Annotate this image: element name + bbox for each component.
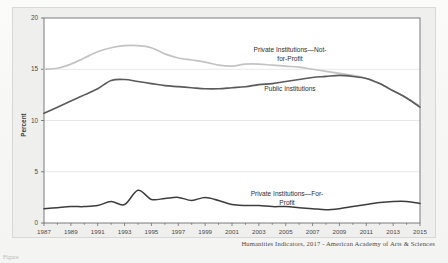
x-tick-label-1987: 1987 bbox=[37, 228, 51, 235]
y-tick-label-5: 5 bbox=[34, 168, 38, 175]
for-profit-label-line2: Profit bbox=[279, 199, 295, 206]
x-axis: 1987198919911993199519971999200120032005… bbox=[37, 223, 427, 235]
x-tick-label-2007: 2007 bbox=[306, 228, 320, 235]
chart-container: 05101520 1987198919911993199519971999200… bbox=[0, 0, 448, 263]
not-for-profit-label-line2: for-Profit bbox=[277, 55, 302, 62]
x-tick-label-1999: 1999 bbox=[198, 228, 212, 235]
for-profit-label-line1: Private Institutions—For- bbox=[251, 190, 324, 197]
x-tick-label-1997: 1997 bbox=[171, 228, 185, 235]
y-tick-label-0: 0 bbox=[34, 219, 38, 226]
line-chart: 05101520 1987198919911993199519971999200… bbox=[0, 0, 448, 263]
cut-off-figure-note: Figure bbox=[3, 254, 19, 261]
y-axis-title: Percent bbox=[20, 112, 27, 136]
x-tick-label-2011: 2011 bbox=[360, 228, 374, 235]
figure-source-caption: Humanities Indicators, 2017 - American A… bbox=[241, 240, 435, 247]
x-tick-label-2013: 2013 bbox=[386, 228, 400, 235]
figure-screenshot: 05101520 1987198919911993199519971999200… bbox=[0, 0, 448, 263]
y-tick-label-15: 15 bbox=[31, 65, 39, 72]
not-for-profit-label-line1: Private Institutions—Not- bbox=[254, 46, 327, 53]
x-tick-label-2009: 2009 bbox=[333, 228, 347, 235]
y-tick-label-20: 20 bbox=[31, 14, 39, 21]
x-tick-label-1989: 1989 bbox=[64, 228, 78, 235]
public-institutions-label: Public Institutions bbox=[264, 85, 316, 92]
x-tick-label-1995: 1995 bbox=[145, 228, 159, 235]
x-tick-label-1993: 1993 bbox=[118, 228, 132, 235]
x-tick-label-2015: 2015 bbox=[413, 228, 427, 235]
x-tick-label-1991: 1991 bbox=[91, 228, 105, 235]
y-axis: 05101520 bbox=[31, 14, 44, 226]
x-tick-label-2005: 2005 bbox=[279, 228, 293, 235]
x-tick-label-2003: 2003 bbox=[252, 228, 266, 235]
y-tick-label-10: 10 bbox=[31, 117, 39, 124]
x-tick-label-2001: 2001 bbox=[225, 228, 239, 235]
